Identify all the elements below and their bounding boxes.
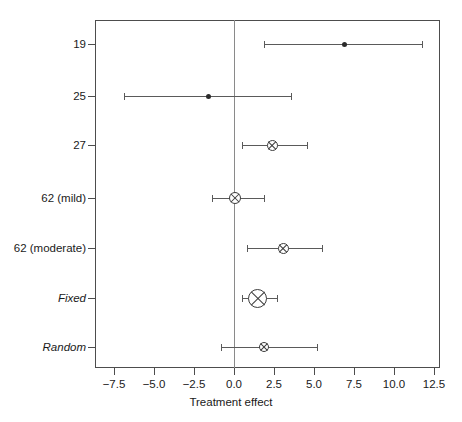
y-axis-label: 62 (mild) — [41, 192, 86, 204]
x-axis-tick — [274, 368, 275, 375]
y-axis-tick — [88, 198, 95, 199]
y-axis-label: 62 (moderate) — [14, 242, 86, 254]
ci-cap-upper — [277, 295, 278, 302]
y-axis-label: 19 — [73, 38, 86, 50]
y-axis-tick — [88, 44, 95, 45]
y-axis-tick — [88, 145, 95, 146]
x-axis-tick — [434, 368, 435, 375]
y-axis-label: 25 — [73, 90, 86, 102]
ci-cap-lower — [124, 93, 125, 100]
ci-cap-lower — [221, 344, 222, 351]
plot-frame — [95, 20, 440, 368]
estimate-marker-dot — [206, 94, 211, 99]
x-axis-tick-label: 12.5 — [411, 378, 457, 391]
ci-cap-lower — [242, 295, 243, 302]
y-axis-label: Random — [43, 341, 86, 353]
ci-cap-upper — [291, 93, 292, 100]
ci-cap-upper — [317, 344, 318, 351]
x-axis-tick — [154, 368, 155, 375]
confidence-interval-line — [221, 347, 317, 348]
y-axis-tick — [88, 96, 95, 97]
x-axis-tick — [234, 368, 235, 375]
y-axis-label: 27 — [73, 139, 86, 151]
ci-cap-upper — [422, 41, 423, 48]
x-axis-tick — [194, 368, 195, 375]
ci-cap-upper — [264, 195, 265, 202]
x-axis-tick — [394, 368, 395, 375]
ci-cap-lower — [242, 142, 243, 149]
ci-cap-upper — [322, 245, 323, 252]
ci-cap-upper — [307, 142, 308, 149]
x-axis-tick — [114, 368, 115, 375]
ci-cap-lower — [264, 41, 265, 48]
y-axis-tick — [88, 248, 95, 249]
y-axis-tick — [88, 347, 95, 348]
estimate-marker-circle-cross — [248, 289, 267, 308]
estimate-marker-circle-cross — [278, 243, 289, 254]
x-axis-title: Treatment effect — [0, 396, 462, 408]
x-axis-tick — [314, 368, 315, 375]
estimate-marker-dot — [342, 42, 347, 47]
forest-plot-figure: 19252762 (mild)62 (moderate)FixedRandom … — [0, 0, 462, 422]
estimate-marker-circle-cross — [229, 192, 241, 204]
estimate-marker-circle-cross — [267, 140, 278, 151]
ci-cap-lower — [212, 195, 213, 202]
ci-cap-lower — [247, 245, 248, 252]
y-axis-tick — [88, 298, 95, 299]
y-axis-label: Fixed — [58, 292, 86, 304]
x-axis-tick — [354, 368, 355, 375]
